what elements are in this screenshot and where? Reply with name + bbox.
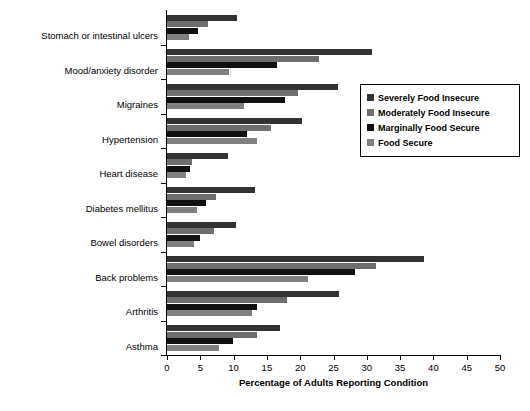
bar xyxy=(167,15,237,21)
category-label: Stomach or intestinal ulcers xyxy=(0,31,158,41)
legend-swatch-marginally-food-secure xyxy=(367,124,374,131)
legend-label: Severely Food Insecure xyxy=(378,93,479,103)
category-label: Arthritis xyxy=(0,307,158,317)
bar xyxy=(167,34,189,40)
category-axis-labels: Stomach or intestinal ulcersMood/anxiety… xyxy=(0,10,162,355)
bar xyxy=(167,291,339,297)
bar xyxy=(167,62,277,68)
bar xyxy=(167,97,285,103)
x-axis-tick-label: 5 xyxy=(188,362,212,373)
bar xyxy=(167,69,229,75)
x-axis-tick-label: 0 xyxy=(155,362,179,373)
bar xyxy=(167,222,236,228)
legend-swatch-severely-food-insecure xyxy=(367,94,374,101)
legend-item: Food Secure xyxy=(367,135,513,150)
x-axis-tick xyxy=(433,355,434,360)
category-label: Asthma xyxy=(0,342,158,352)
bar xyxy=(167,138,257,144)
legend-label: Food Secure xyxy=(378,138,433,148)
bar xyxy=(167,269,355,275)
bar-group xyxy=(167,321,500,356)
bar xyxy=(167,310,252,316)
x-axis-tick-label: 45 xyxy=(455,362,479,373)
x-axis-tick xyxy=(267,355,268,360)
x-axis-tick-label: 35 xyxy=(388,362,412,373)
legend-swatch-food-secure xyxy=(367,139,374,146)
bar xyxy=(167,21,208,27)
bar xyxy=(167,276,308,282)
plot-area xyxy=(167,10,500,355)
bar xyxy=(167,263,376,269)
category-label: Mood/anxiety disorder xyxy=(0,66,158,76)
bar xyxy=(167,56,319,62)
y-axis-tick xyxy=(161,79,166,80)
bar xyxy=(167,235,200,241)
x-axis-tick xyxy=(400,355,401,360)
x-axis-tick xyxy=(367,355,368,360)
category-label: Bowel disorders xyxy=(0,238,158,248)
category-label: Migraines xyxy=(0,100,158,110)
bar xyxy=(167,84,338,90)
x-axis-tick-label: 50 xyxy=(488,362,512,373)
bar xyxy=(167,345,219,351)
legend-item: Severely Food Insecure xyxy=(367,90,513,105)
bar xyxy=(167,194,216,200)
x-axis-tick-label: 20 xyxy=(288,362,312,373)
x-axis-tick-label: 25 xyxy=(322,362,346,373)
bar xyxy=(167,131,247,137)
y-axis-tick xyxy=(161,321,166,322)
y-axis-tick xyxy=(161,286,166,287)
bar xyxy=(167,297,287,303)
legend-item: Marginally Food Secure xyxy=(367,120,513,135)
bar-group xyxy=(167,217,500,252)
bar xyxy=(167,338,233,344)
bar xyxy=(167,90,298,96)
bar xyxy=(167,304,257,310)
x-axis-tick-label: 30 xyxy=(355,362,379,373)
bar xyxy=(167,118,302,124)
bar xyxy=(167,256,424,262)
bar-group xyxy=(167,45,500,80)
y-axis-tick xyxy=(161,114,166,115)
category-label: Back problems xyxy=(0,273,158,283)
legend: Severely Food Insecure Moderately Food I… xyxy=(360,84,520,157)
bar-group xyxy=(167,252,500,287)
x-axis-tick xyxy=(200,355,201,360)
bar xyxy=(167,187,255,193)
y-axis-tick xyxy=(161,45,166,46)
bar xyxy=(167,49,372,55)
x-axis-tick xyxy=(500,355,501,360)
y-axis-tick xyxy=(161,183,166,184)
x-axis-tick-label: 15 xyxy=(255,362,279,373)
bar-group xyxy=(167,10,500,45)
bar-chart: Stomach or intestinal ulcersMood/anxiety… xyxy=(0,0,530,411)
bar xyxy=(167,172,186,178)
bar-group xyxy=(167,286,500,321)
y-axis-tick xyxy=(161,217,166,218)
bar xyxy=(167,200,206,206)
bar xyxy=(167,325,280,331)
x-axis-tick xyxy=(334,355,335,360)
y-axis-tick xyxy=(161,148,166,149)
legend-label: Marginally Food Secure xyxy=(378,123,480,133)
bar xyxy=(167,153,228,159)
y-axis-tick xyxy=(161,252,166,253)
category-label: Hypertension xyxy=(0,135,158,145)
bar xyxy=(167,228,214,234)
legend-item: Moderately Food Insecure xyxy=(367,105,513,120)
x-axis-tick xyxy=(234,355,235,360)
x-axis-tick xyxy=(467,355,468,360)
bar xyxy=(167,159,192,165)
bar xyxy=(167,207,197,213)
x-axis-title: Percentage of Adults Reporting Condition xyxy=(167,377,500,388)
x-axis-tick-label: 40 xyxy=(421,362,445,373)
legend-label: Moderately Food Insecure xyxy=(378,108,490,118)
y-axis-tick xyxy=(161,355,166,356)
bar xyxy=(167,332,257,338)
bar-group xyxy=(167,183,500,218)
bar xyxy=(167,125,271,131)
bar xyxy=(167,166,190,172)
x-axis-tick xyxy=(300,355,301,360)
bar xyxy=(167,103,244,109)
x-axis-tick xyxy=(167,355,168,360)
